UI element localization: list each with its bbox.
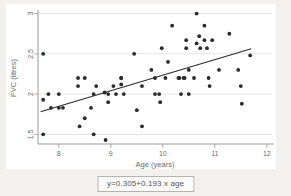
data-point [184,46,188,50]
data-point [178,76,182,80]
data-point [210,38,214,42]
data-point [192,76,196,80]
data-point [208,84,212,88]
data-point [106,100,110,104]
data-point [179,92,183,96]
y-tick-label: 2 [27,92,34,96]
data-point [170,24,174,28]
data-point [187,68,191,72]
data-point [184,38,188,42]
x-tick-label: 8 [57,150,61,157]
data-point [240,102,244,106]
data-point [236,68,240,72]
data-point [149,68,153,72]
fit-line [41,49,252,112]
data-point [205,46,209,50]
data-point [153,92,157,96]
data-point [160,46,164,50]
data-point [106,92,110,96]
data-point [94,84,98,88]
equation-caption: y=0.305+0.193 x age [97,176,194,192]
y-tick-label: 3 [27,12,34,16]
data-point [187,92,191,96]
data-point [114,92,118,96]
x-tick-label: 9 [109,150,113,157]
scatter-chart: 1.522.53 89101112 FVC (litres) Age (year… [6,4,276,169]
data-point [239,84,243,88]
data-point [41,132,45,136]
data-point [197,34,201,38]
y-tick-labels: 1.522.53 [27,12,34,140]
plot-area: 1.522.53 89101112 FVC (litres) Age (year… [6,4,276,169]
y-tick-label: 2.5 [27,49,34,59]
data-point [217,68,221,72]
y-axis-title: FVC (litres) [9,59,18,97]
x-tick-label: 11 [211,150,218,157]
figure-container: 1.522.53 89101112 FVC (litres) Age (year… [0,0,291,196]
y-tick-label: 1.5 [27,129,34,139]
data-point [164,76,168,80]
data-point [198,46,202,50]
data-point [122,92,126,96]
data-point [203,24,207,28]
data-point [47,92,51,96]
data-point [132,52,136,56]
data-point [135,108,139,112]
data-point [41,98,45,102]
data-point [83,116,87,120]
gridlines [38,14,272,135]
data-point [157,92,161,96]
data-point [183,76,187,80]
data-points [41,12,252,142]
x-tick-label: 12 [263,150,271,157]
data-point [140,84,144,88]
data-point [61,106,65,110]
x-tick-labels: 89101112 [57,150,271,157]
data-point [203,38,207,42]
data-point [76,84,80,88]
data-point [140,124,144,128]
data-point [78,124,82,128]
data-point [227,32,231,36]
data-point [248,54,252,58]
data-point [207,76,211,80]
data-point [104,138,108,142]
data-point [83,76,87,80]
data-point [41,52,45,56]
data-point [76,76,80,80]
data-point [166,60,170,64]
data-point [195,41,199,45]
tick-marks [34,14,267,148]
data-point [112,84,116,88]
data-point [119,83,123,87]
data-point [119,76,123,80]
x-axis-title: Age (years) [136,160,175,169]
data-point [158,100,162,104]
data-point [57,92,61,96]
data-point [92,132,96,136]
data-point [89,106,93,110]
regression-line [41,49,252,112]
data-point [195,12,199,16]
x-tick-label: 10 [159,150,167,157]
